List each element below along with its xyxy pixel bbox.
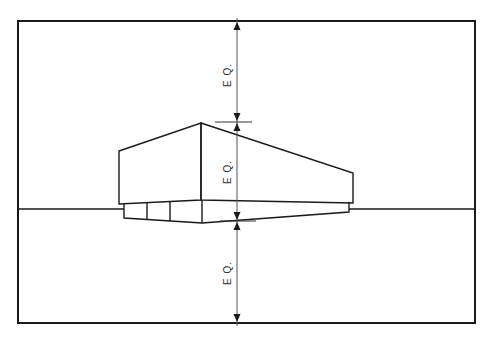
arrow-up-icon (234, 123, 241, 131)
eq-label-middle: E Q. (222, 160, 233, 184)
arrow-down-icon (234, 314, 241, 322)
arrow-up-icon (234, 22, 241, 30)
building-base-right (202, 202, 349, 223)
arrow-up-icon (234, 222, 241, 230)
arrow-down-icon (234, 212, 241, 220)
building-base-left (124, 204, 202, 223)
eq-label-lower: E Q. (222, 261, 233, 285)
arrow-down-icon (234, 113, 241, 121)
building-left-face (119, 123, 201, 204)
perspective-diagram: E Q. E Q. E Q. (0, 0, 487, 348)
picture-frame (18, 21, 475, 323)
building (119, 123, 353, 223)
eq-label-upper: E Q. (222, 63, 233, 87)
